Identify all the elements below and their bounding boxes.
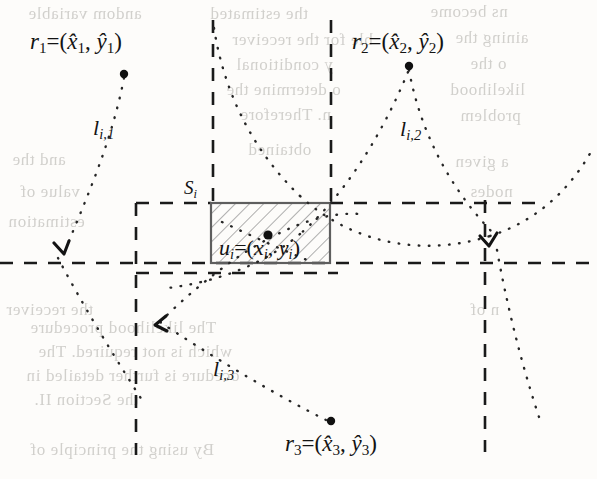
label-r1: r1=(x̂1, ŷ1) <box>30 30 122 55</box>
path-l-i-1-arc <box>214 28 300 196</box>
label-l-i-1: li,1 <box>93 117 114 142</box>
label-r3: r3=(x̂3, ŷ3) <box>285 432 377 457</box>
node-dot-r2 <box>405 62 413 70</box>
path-left-sweep <box>58 258 142 400</box>
path-right-sweep <box>497 250 540 420</box>
path-l-i-2 <box>409 70 492 232</box>
node-dot-r1 <box>120 70 128 78</box>
path-l-i-1 <box>66 78 124 248</box>
arrowhead-l1 <box>54 241 69 254</box>
label-l-i-2: li,2 <box>400 118 421 143</box>
label-region-si: Si <box>184 178 197 200</box>
label-r2: r2=(x̂2, ŷ2) <box>352 30 444 55</box>
path-l-i-3 <box>160 322 326 420</box>
path-l-i-1-arc3 <box>490 150 592 236</box>
node-dot-r3 <box>327 417 335 425</box>
label-unknown-node-ui: ui=(xi, yi) <box>219 237 300 262</box>
figure-container: andom variablethe estimatedns becomeble … <box>0 0 597 479</box>
label-l-i-3: li,3 <box>213 358 234 383</box>
arrowhead-l2 <box>480 233 497 246</box>
